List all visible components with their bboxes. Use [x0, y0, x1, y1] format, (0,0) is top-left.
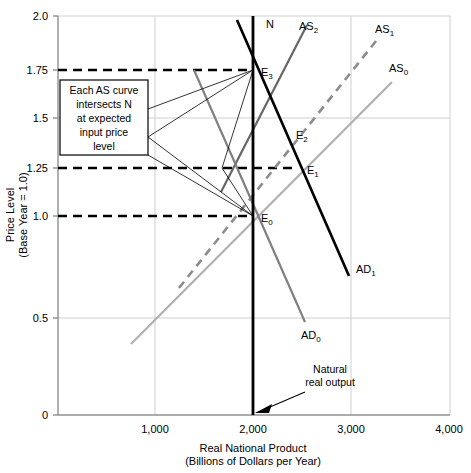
x-axis-title-line1: Real National Product: [199, 442, 306, 454]
label-as1: AS1: [375, 23, 395, 38]
label-e2: E2: [296, 129, 308, 144]
callout-line-2: intersects N: [76, 98, 131, 110]
x-tick-labels: 1,000 2,000 3,000 4,000: [141, 423, 463, 435]
curve-ad0: [194, 70, 305, 322]
callout-box: Each AS curve intersects N at expected i…: [60, 80, 148, 155]
y-tick-labels: 2.0 1.75 1.5 1.25 1.0 0.5 0: [27, 10, 48, 421]
ytick-label-0: 0: [42, 409, 48, 421]
callout-line-1: Each AS curve: [70, 84, 139, 96]
ytick-label-1.75: 1.75: [27, 64, 48, 76]
xtick-label-3000: 3,000: [337, 423, 365, 435]
label-e1: E1: [307, 164, 319, 179]
equilibrium-labels: E0 E1 E2 E3: [261, 66, 319, 227]
callout-line-5: level: [93, 140, 115, 152]
callout-leader-lines: [148, 70, 253, 216]
leader-mid-to-e3: [222, 70, 253, 168]
label-as0: AS0: [389, 62, 409, 77]
annotation-arrow-head: [255, 404, 272, 413]
curve-labels: N AS2 AS1 AS0 AD1 AD0: [266, 18, 409, 344]
y-tick-marks: [53, 16, 58, 415]
xtick-label-1000: 1,000: [141, 423, 169, 435]
as-ad-chart: 2.0 1.75 1.5 1.25 1.0 0.5 0 1,000 2,000 …: [0, 0, 471, 473]
ytick-label-2.0: 2.0: [33, 10, 48, 22]
xtick-label-4000: 4,000: [435, 423, 463, 435]
callout-line-4: input price: [80, 126, 129, 138]
ytick-label-1.0: 1.0: [33, 210, 48, 222]
chart-root: 2.0 1.75 1.5 1.25 1.0 0.5 0 1,000 2,000 …: [0, 0, 471, 473]
y-axis-title-line2: (Base Year = 1.0): [17, 172, 29, 257]
curve-as1: [179, 41, 376, 288]
xtick-label-2000: 2,000: [239, 423, 267, 435]
y-axis-title-line1: Price Level: [4, 188, 16, 242]
annotation-line-1: Natural: [313, 363, 347, 375]
label-ad1: AD1: [356, 263, 376, 278]
label-n: N: [266, 18, 274, 30]
ytick-label-1.25: 1.25: [27, 162, 48, 174]
annotation-line-2: real output: [305, 376, 355, 388]
curve-as2: [221, 25, 307, 192]
ytick-label-0.5: 0.5: [33, 312, 48, 324]
x-axis-title: Real National Product (Billions of Dolla…: [185, 442, 321, 467]
y-axis-title: Price Level (Base Year = 1.0): [4, 172, 29, 257]
label-ad0: AD0: [301, 329, 321, 344]
callout-line-3: at expected: [77, 112, 131, 124]
leader-box-to-e0-a: [148, 137, 253, 216]
x-axis-title-line2: (Billions of Dollars per Year): [185, 455, 321, 467]
leader-box-to-e0-b: [148, 155, 253, 216]
natural-real-output-annotation: Natural real output: [255, 363, 355, 413]
ytick-label-1.5: 1.5: [33, 112, 48, 124]
